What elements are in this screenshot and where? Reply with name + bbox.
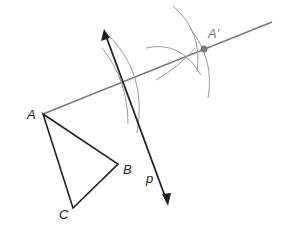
ray-from-a — [43, 22, 272, 114]
triangle-abc — [43, 114, 118, 208]
line-p — [106, 36, 166, 199]
label-p: p — [145, 171, 153, 186]
label-c: C — [59, 207, 69, 222]
arrow-down-icon — [162, 193, 171, 206]
label-b: B — [123, 162, 132, 177]
label-a: A — [26, 107, 36, 122]
arc-aprime-left-lower — [156, 48, 195, 80]
label-a-prime: A′ — [207, 26, 220, 41]
construction-diagram: A B C A′ p — [0, 0, 283, 229]
point-a-prime — [201, 46, 208, 53]
arc-aprime-top — [173, 6, 198, 72]
